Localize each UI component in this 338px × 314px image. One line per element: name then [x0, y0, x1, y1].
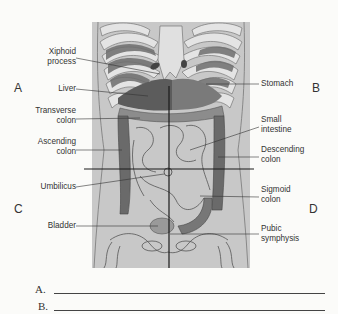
label-descending-line1: Descending [261, 145, 304, 155]
label-sigmoid-colon: Sigmoid colon [261, 185, 291, 205]
label-descending-colon: Descending colon [261, 145, 304, 165]
label-sigmoid-line1: Sigmoid [261, 185, 291, 195]
label-transverse-line2: colon [35, 116, 76, 126]
descending-colon [212, 116, 225, 210]
abdominal-quadrants-figure: Xiphoid process Liver Transverse colon A… [0, 0, 338, 314]
quadrant-letter-a: A [14, 81, 22, 95]
label-pubic-symphysis: Pubic symphysis [261, 224, 299, 244]
label-transverse-line1: Transverse [35, 106, 76, 116]
label-stomach: Stomach [261, 79, 293, 89]
label-ascending-colon: Ascending colon [38, 137, 76, 157]
answer-label-b: B. [38, 300, 48, 312]
label-small-line1: Small [261, 115, 292, 125]
label-xiphoid-line2: process [47, 57, 76, 67]
label-descending-line2: colon [261, 155, 304, 165]
label-small-line2: intestine [261, 125, 292, 135]
answer-label-a: A. [35, 283, 46, 295]
label-pubic-line1: Pubic [261, 224, 299, 234]
label-liver: Liver [58, 84, 76, 94]
label-small-intestine: Small intestine [261, 115, 292, 135]
label-bladder: Bladder [48, 221, 76, 231]
label-pubic-line2: symphysis [261, 234, 299, 244]
quadrant-letter-c: C [14, 202, 23, 216]
answer-blank-b[interactable] [54, 310, 325, 311]
label-ascending-line1: Ascending [38, 137, 76, 147]
label-xiphoid-line1: Xiphoid [47, 47, 76, 57]
label-xiphoid-process: Xiphoid process [47, 47, 76, 67]
answer-blank-a[interactable] [54, 293, 325, 294]
quadrant-letter-d: D [309, 202, 318, 216]
label-umbilicus: Umbilicus [41, 182, 77, 192]
quadrant-letter-b: B [312, 81, 320, 95]
label-transverse-colon: Transverse colon [35, 106, 76, 126]
label-ascending-line2: colon [38, 147, 76, 157]
label-sigmoid-line2: colon [261, 195, 291, 205]
